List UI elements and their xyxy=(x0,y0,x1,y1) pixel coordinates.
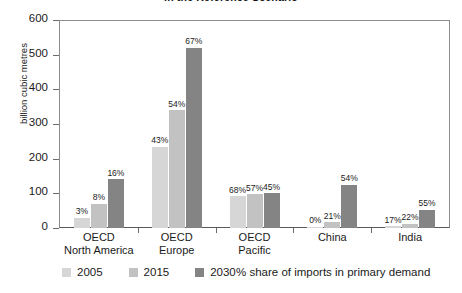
bar[interactable]: 67% xyxy=(186,20,202,228)
bar-rect xyxy=(91,204,107,228)
bar-value-label: 45% xyxy=(252,182,292,192)
bar[interactable]: 8% xyxy=(91,20,107,228)
bar[interactable]: 54% xyxy=(169,20,185,228)
bar-group: 68%57%45% xyxy=(230,20,280,228)
bar-rect xyxy=(324,222,340,228)
bar-rect xyxy=(74,218,90,228)
legend-swatch-2030 xyxy=(195,268,204,277)
chart-title: in the Reference Scenario xyxy=(0,0,462,3)
y-tick-mark xyxy=(53,228,59,229)
x-category-label: OECDPacific xyxy=(216,231,294,256)
bars-layer: 3%8%16%43%54%67%68%57%45%0%21%54%17%22%5… xyxy=(60,20,449,228)
y-tick-label: 300 xyxy=(4,116,48,128)
bar[interactable]: 57% xyxy=(247,20,263,228)
bar-rect xyxy=(402,224,418,228)
legend-annotation: % share of imports in primary demand xyxy=(236,264,430,280)
bar[interactable]: 68% xyxy=(230,20,246,228)
bar-value-label: 16% xyxy=(96,168,136,178)
bar-rect xyxy=(152,147,168,228)
y-tick-label: 200 xyxy=(4,151,48,163)
bar-rect xyxy=(247,194,263,228)
bar[interactable]: 54% xyxy=(341,20,357,228)
x-category-label: OECDEurope xyxy=(138,231,216,256)
bar[interactable]: 45% xyxy=(264,20,280,228)
x-category-label-line: China xyxy=(293,231,371,244)
bar-rect xyxy=(108,179,124,228)
x-category-label-line: OECD xyxy=(216,231,294,244)
bar-group: 17%22%55% xyxy=(385,20,435,228)
x-category-label-line: Europe xyxy=(138,244,216,257)
legend-swatch-2005 xyxy=(62,268,71,277)
x-category-label-line: OECD xyxy=(138,231,216,244)
bar[interactable]: 0% xyxy=(307,20,323,228)
bar-rect xyxy=(307,227,323,229)
x-category-label-line: OECD xyxy=(60,231,138,244)
x-category-label-line: India xyxy=(371,231,449,244)
bar[interactable]: 43% xyxy=(152,20,168,228)
x-category-label-line: Pacific xyxy=(216,244,294,257)
bar[interactable]: 55% xyxy=(419,20,435,228)
bar[interactable]: 16% xyxy=(108,20,124,228)
bar-group: 43%54%67% xyxy=(152,20,202,228)
legend-item[interactable]: 2030 xyxy=(195,266,236,278)
bar-value-label: 67% xyxy=(174,36,214,46)
bar[interactable]: 21% xyxy=(324,20,340,228)
bar-group: 0%21%54% xyxy=(307,20,357,228)
y-tick-label: 0 xyxy=(4,220,48,232)
x-category-label: India xyxy=(371,231,449,244)
y-tick-label: 100 xyxy=(4,185,48,197)
legend-label: 2030 xyxy=(210,266,236,278)
bar[interactable]: 17% xyxy=(385,20,401,228)
bar-rect xyxy=(385,226,401,228)
bar-rect xyxy=(341,185,357,228)
bar-rect xyxy=(230,196,246,228)
x-category-label: China xyxy=(293,231,371,244)
bar-rect xyxy=(169,110,185,228)
y-tick-label: 600 xyxy=(4,12,48,24)
legend-item[interactable]: 2005 xyxy=(62,266,103,278)
legend-label: 2005 xyxy=(77,266,103,278)
chart-legend: 200520152030 xyxy=(62,264,262,280)
bar-rect xyxy=(186,48,202,228)
legend-label: 2015 xyxy=(144,266,170,278)
bar-value-label: 55% xyxy=(407,198,447,208)
bar-value-label: 54% xyxy=(329,173,369,183)
legend-item[interactable]: 2015 xyxy=(129,266,170,278)
y-tick-label: 500 xyxy=(4,47,48,59)
legend-swatch-2015 xyxy=(129,268,138,277)
bar-rect xyxy=(419,210,435,228)
y-tick-label: 400 xyxy=(4,81,48,93)
bar-rect xyxy=(264,193,280,228)
x-category-label-line: North America xyxy=(60,244,138,257)
gas-imports-bar-chart: in the Reference Scenario billion cubic … xyxy=(0,0,462,293)
x-category-label: OECDNorth America xyxy=(60,231,138,256)
bar-group: 3%8%16% xyxy=(74,20,124,228)
bar[interactable]: 22% xyxy=(402,20,418,228)
